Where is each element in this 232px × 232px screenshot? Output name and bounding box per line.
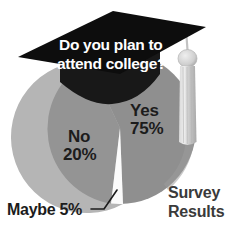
tassel-bead bbox=[178, 50, 197, 68]
maybe-label: Maybe 5% bbox=[7, 201, 82, 218]
survey-infographic: Do you plan to attend college? Yes 75% N… bbox=[0, 0, 232, 232]
no-label-name: No bbox=[68, 127, 90, 146]
pie-chart-figure: Do you plan to attend college? Yes 75% N… bbox=[0, 0, 232, 232]
no-label-value: 20% bbox=[63, 145, 97, 164]
caption-line-2: Results bbox=[168, 203, 225, 220]
caption-line-1: Survey bbox=[168, 184, 220, 201]
survey-results-caption: Survey Results bbox=[168, 184, 225, 220]
cap-title-line-2: attend college? bbox=[57, 55, 166, 72]
cap-title-line-1: Do you plan to bbox=[59, 36, 162, 53]
tassel-icon bbox=[178, 36, 197, 145]
yes-label-value: 75% bbox=[130, 119, 164, 138]
tassel-cord bbox=[187, 36, 188, 50]
yes-label-name: Yes bbox=[130, 101, 159, 120]
